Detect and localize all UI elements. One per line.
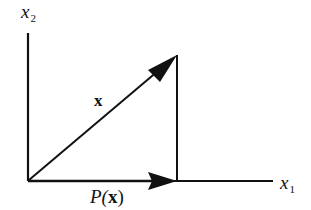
x2-axis-label: x2 [21, 2, 36, 21]
projection-label: P(x) [90, 187, 124, 206]
projection-label-arg: x [108, 186, 118, 207]
x2-label-subscript: 2 [30, 12, 36, 24]
x1-label-subscript: 1 [289, 183, 295, 195]
vector-x-shaft [29, 65, 165, 180]
vector-x-arrowhead-icon [148, 55, 177, 82]
projection-arrowhead-icon [148, 172, 177, 190]
vector-x-label: x [94, 92, 103, 109]
x2-label-base: x [21, 1, 29, 22]
projection-label-close: ) [117, 186, 123, 207]
x1-axis-label: x1 [280, 173, 295, 192]
x1-label-base: x [280, 172, 288, 193]
projection-diagram [0, 0, 311, 210]
projection-label-func: P( [90, 186, 108, 207]
